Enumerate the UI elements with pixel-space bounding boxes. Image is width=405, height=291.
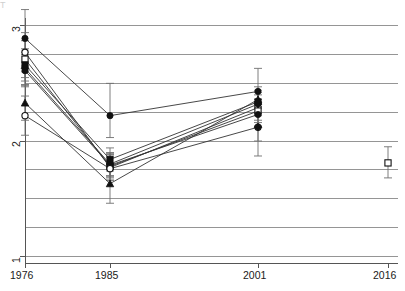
data-point-marker — [255, 88, 261, 94]
x-tick-label-1976: 1976 — [10, 269, 33, 281]
data-point-marker — [22, 68, 28, 74]
data-point-marker — [254, 123, 262, 131]
series-line — [25, 116, 258, 169]
data-point-marker — [385, 160, 391, 166]
data-point-marker — [22, 113, 28, 119]
y-tick-label-2: 2 — [10, 141, 22, 147]
error-bar — [106, 83, 114, 137]
line-chart-plot — [0, 0, 405, 291]
data-point-marker — [107, 113, 113, 119]
data-point-marker — [255, 111, 261, 117]
x-tick-label-2001: 2001 — [243, 269, 266, 281]
data-point-marker — [107, 166, 113, 172]
x-tick-label-1985: 1985 — [95, 269, 118, 281]
series-line — [25, 68, 258, 164]
data-point-marker — [21, 99, 28, 106]
data-point-marker — [22, 49, 28, 55]
chart-container: T 3 2 1 1976 1985 2001 2016 — [0, 0, 405, 291]
y-tick-label-3: 3 — [10, 26, 22, 32]
x-tick-label-2016: 2016 — [373, 269, 396, 281]
data-point-marker — [22, 56, 28, 62]
y-tick-label-1: 1 — [10, 257, 22, 263]
data-point-marker — [22, 35, 28, 41]
series-line — [25, 59, 258, 166]
